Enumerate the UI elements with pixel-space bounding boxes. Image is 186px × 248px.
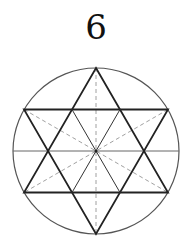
center-point	[95, 150, 98, 153]
hexagram-diagram	[0, 0, 186, 248]
